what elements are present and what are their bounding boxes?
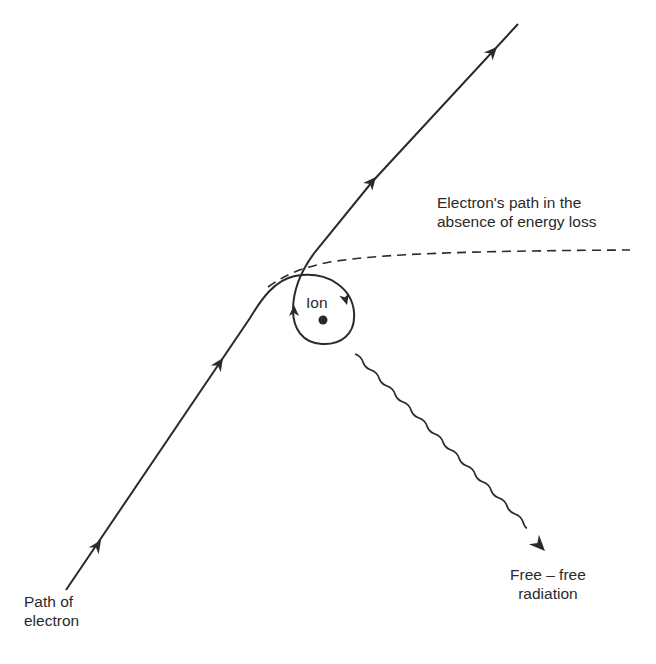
electron-path-label-line1: Path of xyxy=(24,592,79,611)
undeflected-path-label-line2: absence of energy loss xyxy=(437,212,596,231)
arrow-icon xyxy=(89,43,502,554)
undeflected-path-line xyxy=(268,250,630,287)
undeflected-path-label: Electron's path in the absence of energy… xyxy=(437,193,596,231)
radiation-label: Free – free radiation xyxy=(510,565,586,603)
electron-path-line xyxy=(66,24,518,590)
ion-label-text: Ion xyxy=(306,293,328,312)
electron-path-label-line2: electron xyxy=(24,611,79,630)
ion-label: Ion xyxy=(306,293,328,312)
radiation-label-line1: Free – free xyxy=(510,565,586,584)
ion-dot-icon xyxy=(319,316,328,325)
photon-wave-line xyxy=(355,354,527,528)
photon-arrow-icon xyxy=(529,535,550,556)
undeflected-path-label-line1: Electron's path in the xyxy=(437,193,596,212)
radiation-label-line2: radiation xyxy=(510,584,586,603)
electron-path-label: Path of electron xyxy=(24,592,79,630)
